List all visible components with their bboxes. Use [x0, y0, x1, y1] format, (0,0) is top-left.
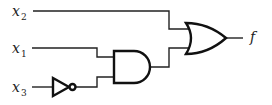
input-label-x3: x 3 — [12, 79, 27, 98]
output-label-f: f — [249, 29, 258, 45]
logic-circuit-diagram: x 2 x 1 x 3 f — [0, 0, 272, 105]
svg-text:x: x — [12, 79, 20, 95]
or-gate-shape-icon — [186, 23, 226, 54]
wire-not-to-and — [76, 77, 114, 87]
not-gate-bubble-icon — [70, 84, 76, 90]
svg-text:x: x — [12, 40, 20, 56]
svg-text:1: 1 — [21, 49, 27, 59]
svg-text:2: 2 — [21, 12, 27, 22]
svg-text:x: x — [12, 3, 20, 19]
wire-x2-to-or — [33, 11, 190, 29]
input-label-x2: x 2 — [12, 3, 27, 22]
svg-text:3: 3 — [21, 88, 27, 98]
wire-and-to-or — [150, 48, 190, 67]
and-gate — [114, 51, 150, 83]
input-label-x1: x 1 — [12, 40, 27, 59]
not-gate — [53, 78, 76, 96]
and-gate-shape-icon — [114, 51, 150, 83]
or-gate — [186, 23, 226, 54]
wire-x1-to-and — [32, 48, 114, 57]
not-gate-triangle-icon — [53, 78, 69, 96]
